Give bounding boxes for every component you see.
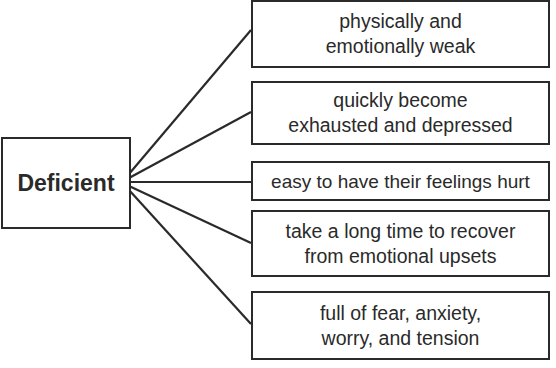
- child-node-1: physically and emotionally weak: [251, 0, 550, 68]
- connector-2: [129, 112, 251, 178]
- child-node-label: easy to have their feelings hurt: [271, 169, 530, 194]
- connector-4: [129, 186, 251, 243]
- root-node-deficient: Deficient: [1, 137, 131, 229]
- child-node-label: take a long time to recover from emotion…: [286, 219, 516, 269]
- child-node-label: full of fear, anxiety, worry, and tensio…: [320, 301, 481, 351]
- child-node-2: quickly become exhausted and depressed: [251, 81, 550, 145]
- child-node-4: take a long time to recover from emotion…: [251, 210, 550, 277]
- child-node-label: physically and emotionally weak: [326, 9, 476, 59]
- root-node-label: Deficient: [17, 170, 114, 197]
- child-node-label: quickly become exhausted and depressed: [288, 88, 512, 138]
- child-node-5: full of fear, anxiety, worry, and tensio…: [251, 291, 550, 360]
- child-node-3: easy to have their feelings hurt: [251, 161, 550, 201]
- connector-5: [129, 190, 251, 324]
- connector-1: [129, 30, 251, 174]
